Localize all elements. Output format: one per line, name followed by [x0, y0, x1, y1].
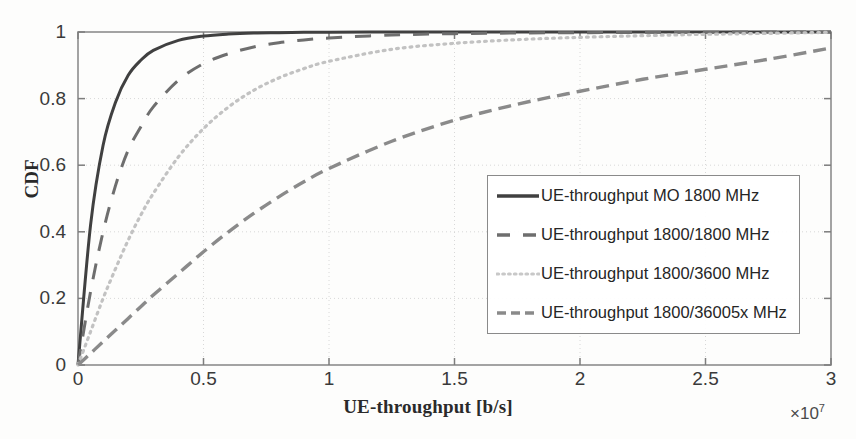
- y-tick-label: 0.2: [22, 287, 66, 309]
- x-axis-exponent: ×107: [790, 402, 825, 424]
- legend-row: UE-throughput MO 1800 MHz: [488, 176, 799, 215]
- legend-row: UE-throughput 1800/3600 MHz: [488, 254, 799, 293]
- exponent-power: 7: [819, 402, 825, 414]
- x-axis-title: UE-throughput [b/s]: [0, 396, 856, 418]
- x-tick-label: 2.5: [692, 368, 718, 390]
- exponent-base: 10: [800, 404, 819, 423]
- y-tick-label: 0.4: [22, 221, 66, 243]
- y-tick-label: 0: [22, 354, 66, 376]
- legend: UE-throughput MO 1800 MHz UE-throughput …: [487, 175, 800, 334]
- x-tick-label: 3: [826, 368, 837, 390]
- cdf-chart-figure: 0 0.2 0.4 0.6 0.8 1 0 0.5 1 1.5 2 2.5 3 …: [0, 0, 856, 439]
- y-axis-title: CDF: [21, 139, 43, 219]
- legend-line-sample-dotted: [496, 267, 540, 281]
- x-tick-label: 1: [324, 368, 335, 390]
- legend-label: UE-throughput 1800/36005x MHz: [541, 303, 787, 322]
- y-tick-label: 1: [22, 21, 66, 43]
- legend-line-sample-dashed: [496, 228, 540, 242]
- x-tick-label: 1.5: [441, 368, 467, 390]
- legend-label: UE-throughput MO 1800 MHz: [541, 186, 759, 205]
- x-tick-label: 0.5: [190, 368, 216, 390]
- legend-label: UE-throughput 1800/1800 MHz: [541, 225, 769, 244]
- legend-label: UE-throughput 1800/3600 MHz: [541, 264, 769, 283]
- x-tick-label: 2: [575, 368, 586, 390]
- exponent-times-symbol: ×: [790, 404, 800, 423]
- legend-line-sample-long-dashed: [496, 306, 540, 320]
- legend-row: UE-throughput 1800/36005x MHz: [488, 293, 799, 332]
- legend-row: UE-throughput 1800/1800 MHz: [488, 215, 799, 254]
- y-tick-label: 0.8: [22, 88, 66, 110]
- legend-line-sample-solid: [496, 189, 540, 203]
- x-tick-label: 0: [73, 368, 84, 390]
